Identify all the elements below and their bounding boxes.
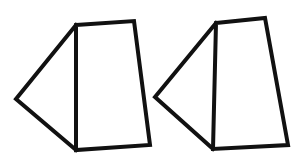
diagram-canvas <box>0 0 301 162</box>
figure-2 <box>155 18 288 149</box>
figure-1-triangle <box>16 25 76 150</box>
figure-2-quadrilateral <box>213 18 288 149</box>
figure-1 <box>16 21 150 150</box>
figure-1-quadrilateral <box>76 21 150 150</box>
figure-2-triangle <box>155 23 216 149</box>
